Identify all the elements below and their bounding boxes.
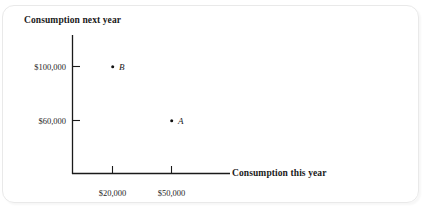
data-point-b[interactable] [111,65,115,69]
x-tick-label-50000: $50,000 [158,188,186,198]
data-point-b-label: B [119,62,125,72]
y-tick-label-60000: $60,000 [22,116,66,126]
y-tick-label-100000: $100,000 [22,62,66,72]
data-point-a[interactable] [170,119,174,123]
y-axis-title: Consumption next year [24,15,121,25]
figure-container: Consumption next year Consumption this y… [0,0,427,214]
data-point-a-label: A [178,116,184,126]
x-tick-label-20000: $20,000 [99,188,127,198]
scatter-plot-canvas [0,0,427,214]
x-axis-title: Consumption this year [232,168,326,178]
